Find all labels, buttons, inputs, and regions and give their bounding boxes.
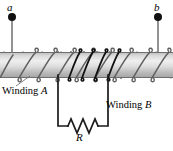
winding-b-label-letter: B — [145, 99, 151, 110]
terminal-b-dot — [154, 13, 162, 21]
winding-a-label: Winding A — [2, 86, 47, 97]
terminal-a-label: a — [7, 2, 13, 13]
winding-a-label-letter: A — [41, 85, 47, 96]
resistor-label: R — [76, 132, 83, 143]
terminal-a-dot — [8, 13, 16, 21]
winding-a-label-text: Winding — [2, 85, 41, 96]
resistor-symbol — [68, 119, 98, 133]
diagram-canvas — [0, 0, 173, 151]
terminal-b-label: b — [154, 2, 160, 13]
winding-b-label-text: Winding — [106, 99, 145, 110]
winding-b-label: Winding B — [106, 100, 151, 111]
figure-container: a b Winding A Winding B R — [0, 0, 173, 151]
